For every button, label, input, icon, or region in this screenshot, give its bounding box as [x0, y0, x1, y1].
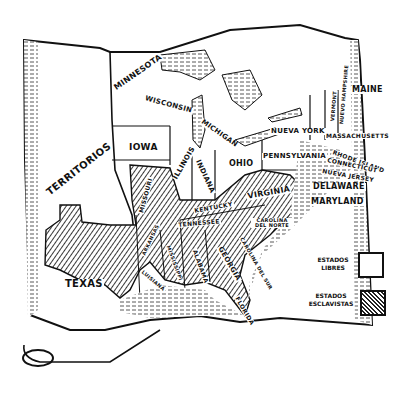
label-carolina-norte: CAROLINA DEL NORTE [251, 218, 293, 228]
legend-slave-swatch [360, 290, 386, 316]
label-iowa: IOWA [128, 143, 159, 152]
label-maine: MAINE [351, 86, 384, 94]
legend-free-line1: ESTADOS [317, 256, 348, 263]
legend-free-label: ESTADOS LIBRES [312, 256, 354, 273]
label-maryland: MARYLAND [310, 198, 365, 206]
label-delaware: DELAWARE [312, 183, 366, 191]
label-nueva-york: NUEVA YORK [270, 128, 326, 135]
label-massachusetts: MASSACHUSETTS [325, 133, 390, 139]
legend-free-line2: LIBRES [321, 264, 345, 271]
label-texas: TEXAS [64, 279, 104, 289]
legend-slave-label: ESTADOS ESCLAVISTAS [304, 292, 358, 309]
legend-slave-line2: ESCLAVISTAS [309, 300, 354, 307]
scroll-curl-icon [23, 350, 53, 366]
label-ohio: OHIO [228, 160, 254, 168]
label-pennsylvania: PENNSYLVANIA [262, 153, 327, 160]
legend-free-swatch [358, 252, 384, 278]
legend-slave-line1: ESTADOS [315, 292, 346, 299]
